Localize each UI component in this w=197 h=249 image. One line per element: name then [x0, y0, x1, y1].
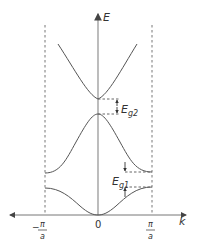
tick-zero: 0	[95, 219, 101, 230]
eg1-label: Eg1	[112, 175, 129, 190]
tick-neg-pi-den: a	[40, 232, 45, 241]
tick-neg-pi-num: π	[40, 220, 45, 229]
band-structure-diagram: Eg2 Eg1 E k − π a 0 π a	[0, 0, 197, 249]
eg2-label: Eg2	[121, 103, 138, 118]
tick-pi-num: π	[148, 220, 153, 229]
energy-axis-label: E	[103, 11, 110, 24]
k-axis-label: k	[179, 215, 186, 228]
tick-pi-den: a	[148, 232, 153, 241]
tick-neg-pi-sign: −	[32, 222, 40, 232]
